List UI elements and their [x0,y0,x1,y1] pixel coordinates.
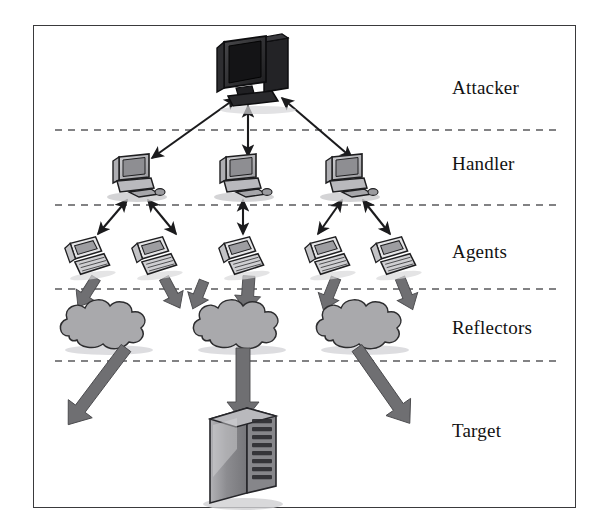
band-label-reflectors: Reflectors [452,318,532,337]
band-label-attacker: Attacker [452,78,519,97]
band-label-agents: Agents [452,242,507,261]
figure-canvas: Attacker Handler Agents Reflectors Targe… [0,0,606,532]
band-label-handler: Handler [452,154,515,173]
band-label-target: Target [452,421,501,440]
